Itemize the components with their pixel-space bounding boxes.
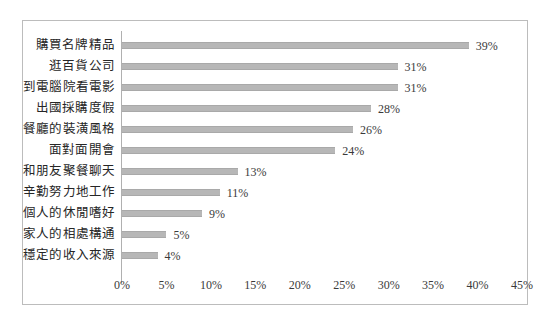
category-label: 逛百貨公司	[23, 56, 115, 77]
bar-row: 辛勤努力地工作11%	[23, 182, 527, 203]
bar-row: 面對面開會24%	[23, 140, 527, 161]
bar-value-label: 5%	[173, 224, 189, 245]
bar-row: 和朋友聚餐聊天13%	[23, 161, 527, 182]
bar-value-label: 9%	[209, 203, 225, 224]
value-axis-tick: 15%	[244, 278, 266, 293]
bar	[122, 63, 398, 70]
bar-track: 24%	[122, 140, 527, 161]
bar-value-label: 24%	[342, 140, 364, 161]
category-label: 辛勤努力地工作	[23, 182, 115, 203]
category-label: 出國採購度假	[23, 98, 115, 119]
bar	[122, 105, 371, 112]
bar-track: 28%	[122, 98, 527, 119]
value-axis-tick: 40%	[467, 278, 489, 293]
bar-row: 逛百貨公司31%	[23, 56, 527, 77]
bar	[122, 126, 353, 133]
value-axis-tick: 10%	[200, 278, 222, 293]
bar	[122, 210, 202, 217]
bar-row: 購買名牌精品39%	[23, 35, 527, 56]
value-axis-tick-labels: 0%5%10%15%20%25%30%35%40%45%	[122, 278, 527, 298]
bar-row: 餐廳的裝潢風格26%	[23, 119, 527, 140]
category-label: 家人的相處構通	[23, 224, 115, 245]
bar	[122, 189, 220, 196]
bar-value-label: 31%	[405, 77, 427, 98]
bar-row: 家人的相處構通5%	[23, 224, 527, 245]
bar-track: 11%	[122, 182, 527, 203]
bar-value-label: 4%	[165, 245, 181, 266]
bar	[122, 147, 335, 154]
bar-value-label: 11%	[227, 182, 249, 203]
bar	[122, 168, 238, 175]
value-axis-tick: 30%	[378, 278, 400, 293]
bar-track: 26%	[122, 119, 527, 140]
category-label: 購買名牌精品	[23, 35, 115, 56]
category-label: 個人的休閒嗜好	[23, 203, 115, 224]
value-axis-tick: 35%	[422, 278, 444, 293]
value-axis-tick: 5%	[158, 278, 174, 293]
value-axis-tick: 0%	[114, 278, 130, 293]
bar-value-label: 28%	[378, 98, 400, 119]
category-label: 到電腦院看電影	[23, 77, 115, 98]
bar-track: 9%	[122, 203, 527, 224]
chart-frame: 購買名牌精品39%逛百貨公司31%到電腦院看電影31%出國採購度假28%餐廳的裝…	[22, 20, 528, 305]
bar-track: 31%	[122, 56, 527, 77]
category-label: 餐廳的裝潢風格	[23, 119, 115, 140]
bar-track: 5%	[122, 224, 527, 245]
bar-row: 到電腦院看電影31%	[23, 77, 527, 98]
bar-track: 13%	[122, 161, 527, 182]
category-label: 和朋友聚餐聊天	[23, 161, 115, 182]
bar	[122, 252, 158, 259]
value-axis-tick: 25%	[333, 278, 355, 293]
bar-value-label: 13%	[245, 161, 267, 182]
bar-row: 出國採購度假28%	[23, 98, 527, 119]
bar-track: 39%	[122, 35, 527, 56]
category-label: 面對面開會	[23, 140, 115, 161]
bar-value-label: 26%	[360, 119, 382, 140]
bar	[122, 231, 166, 238]
bar-row: 個人的休閒嗜好9%	[23, 203, 527, 224]
bar-value-label: 31%	[405, 56, 427, 77]
bar	[122, 84, 398, 91]
plot-area: 購買名牌精品39%逛百貨公司31%到電腦院看電影31%出國採購度假28%餐廳的裝…	[23, 21, 527, 304]
value-axis-tick: 45%	[511, 278, 533, 293]
bar-series: 購買名牌精品39%逛百貨公司31%到電腦院看電影31%出國採購度假28%餐廳的裝…	[23, 35, 527, 279]
category-label: 穩定的收入來源	[23, 245, 115, 266]
bar-row: 穩定的收入來源4%	[23, 245, 527, 266]
bar	[122, 42, 469, 49]
bar-track: 31%	[122, 77, 527, 98]
bar-track: 4%	[122, 245, 527, 266]
value-axis-tick: 20%	[289, 278, 311, 293]
bar-value-label: 39%	[476, 35, 498, 56]
